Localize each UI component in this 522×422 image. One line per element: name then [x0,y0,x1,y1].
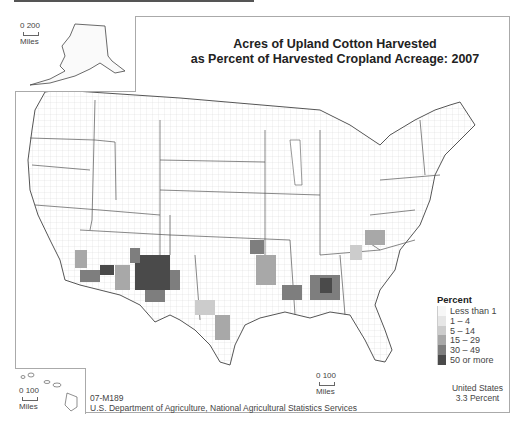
legend-item: 30 – 49 [437,345,497,355]
us-total: United States 3.3 Percent [440,383,515,403]
legend-label: 50 or more [450,355,494,365]
hawaii-scale: 0 100 Miles [19,386,39,412]
legend-swatch [437,326,446,336]
legend-swatch [437,345,446,355]
map-title: Acres of Upland Cotton Harvested as Perc… [160,37,510,67]
alaska-inset: 0 200 Miles [15,16,136,92]
legend-label: 1 – 4 [450,316,470,326]
top-rule [14,0,254,2]
legend-item: Less than 1 [437,306,497,316]
legend-label: 15 – 29 [450,335,480,345]
alaska-shape [20,21,130,86]
legend-item: 15 – 29 [437,335,497,345]
hawaii-scale-label: 0 100 [19,386,39,395]
legend-item: 5 – 14 [437,326,497,336]
title-line-1: Acres of Upland Cotton Harvested [160,37,510,52]
legend-title: Percent [437,294,497,305]
us-outline [28,90,475,365]
legend-label: 30 – 49 [450,345,480,355]
main-scale-bar [319,382,335,386]
legend-swatch [437,316,446,326]
legend-item: 1 – 4 [437,316,497,326]
legend-item: 50 or more [437,355,497,365]
main-scale-label: 0 100 [316,371,336,380]
legend-swatch [437,335,446,345]
legend-label: 5 – 14 [450,326,475,336]
us-total-value: 3.3 Percent [440,393,515,403]
hawaii-scale-units: Miles [19,402,38,411]
footer: 07-M189 U.S. Department of Agriculture, … [90,393,357,413]
legend-swatch [437,355,446,365]
legend-swatch [437,306,446,316]
us-total-label: United States [440,383,515,393]
hawaii-inset: 0 100 Miles [15,368,86,414]
source-credit: U.S. Department of Agriculture, National… [90,403,357,413]
map-id: 07-M189 [90,393,357,403]
legend-label: Less than 1 [450,306,497,316]
hawaii-scale-bar [22,397,38,401]
legend: Percent Less than 1 1 – 4 5 – 14 15 – 29… [437,294,497,365]
title-line-2: as Percent of Harvested Cropland Acreage… [160,52,510,67]
